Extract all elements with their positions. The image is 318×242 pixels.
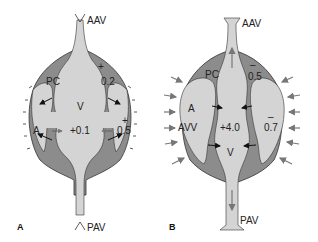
panel-a: AAV PAV PC V A + 0.2 +0.1 + 0.5 A bbox=[17, 14, 137, 233]
panel-b-right-sign: – bbox=[268, 111, 274, 122]
panel-a-v-label: V bbox=[77, 101, 84, 112]
panel-b-v-label: V bbox=[227, 147, 234, 158]
panel-b-avv-label: AVV bbox=[178, 122, 198, 133]
panel-a-pav-label: PAV bbox=[87, 222, 106, 233]
panel-b: AAV PAV PC A AVV V – 0.5 +4.0 – 0.7 B bbox=[164, 18, 300, 232]
panel-b-aav-label: AAV bbox=[242, 18, 262, 29]
panel-b-center-pressure: +4.0 bbox=[220, 122, 240, 133]
panel-a-right-pressure: 0.5 bbox=[117, 125, 131, 136]
panel-a-pc-sign: + bbox=[98, 61, 104, 72]
panel-a-aav-label: AAV bbox=[87, 15, 107, 26]
diagram-canvas: AAV PAV PC V A + 0.2 +0.1 + 0.5 A bbox=[0, 0, 318, 242]
panel-a-a-label: A bbox=[33, 125, 40, 136]
panel-a-pc-pressure: 0.2 bbox=[101, 76, 115, 87]
panel-a-center-pressure: +0.1 bbox=[70, 125, 90, 136]
panel-b-pav-label: PAV bbox=[240, 215, 259, 226]
panel-b-pc-pressure: 0.5 bbox=[248, 71, 262, 82]
panel-b-right-pressure: 0.7 bbox=[264, 122, 278, 133]
panel-b-pc-sign: – bbox=[250, 59, 256, 70]
panel-b-pc-label: PC bbox=[205, 69, 219, 80]
panel-a-pc-label: PC bbox=[46, 76, 60, 87]
panel-b-a-label: A bbox=[188, 103, 195, 114]
panel-b-label: B bbox=[169, 222, 176, 232]
panel-a-label: A bbox=[17, 222, 24, 232]
